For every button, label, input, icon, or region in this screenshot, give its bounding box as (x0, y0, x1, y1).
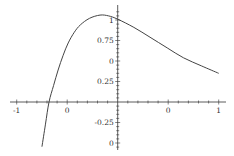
function-curve (42, 15, 219, 147)
x-tick-label: 0 (65, 106, 70, 115)
y-tick-label: -0.25 (94, 118, 113, 127)
function-plot: -100110.7500.25-0.250 (0, 0, 234, 156)
x-tick-label: 1 (216, 106, 221, 115)
x-tick-label: -1 (13, 106, 20, 115)
y-tick-label: 0 (109, 139, 114, 148)
y-tick-label: 0.25 (97, 77, 114, 86)
x-tick-label: 0 (166, 106, 171, 115)
y-tick-label: 0.75 (97, 36, 114, 45)
y-tick-label: 0 (109, 57, 114, 66)
